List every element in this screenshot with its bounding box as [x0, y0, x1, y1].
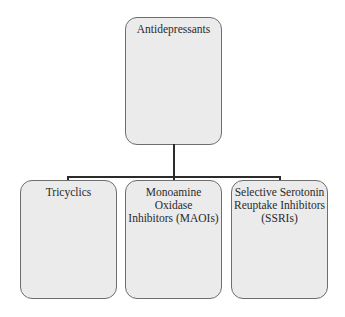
- child-node-ssris: Selective Serotonin Reuptake Inhibitors …: [231, 180, 328, 299]
- child-node-label-line: Monoamine: [126, 186, 221, 199]
- connector-root-stem: [173, 144, 175, 178]
- child-node-label-line: Reuptake Inhibitors: [232, 199, 327, 212]
- child-node-label-line: (SSRIs): [232, 212, 327, 225]
- root-node-label: Antidepressants: [137, 23, 210, 35]
- child-node-tricyclics: Tricyclics: [20, 180, 117, 299]
- child-node-label: Tricyclics: [46, 186, 92, 198]
- child-node-label-line: Inhibitors (MAOIs): [126, 212, 221, 225]
- child-node-maois: Monoamine Oxidase Inhibitors (MAOIs): [125, 180, 222, 299]
- child-node-label-line: Oxidase: [126, 199, 221, 212]
- root-node-antidepressants: Antidepressants: [125, 17, 222, 145]
- child-node-label-line: Selective Serotonin: [232, 186, 327, 199]
